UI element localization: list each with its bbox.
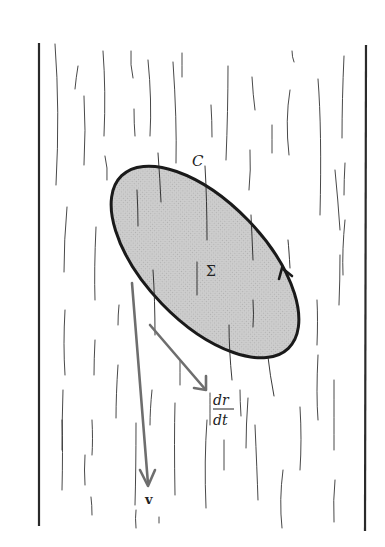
- tangent-label-numerator: dr: [213, 392, 230, 408]
- fluid-flow-diagram: C Σ dr dt v: [0, 0, 385, 547]
- velocity-label-v: v: [144, 492, 153, 507]
- curve-label-c: C: [192, 152, 204, 170]
- tangent-label-denominator: dt: [213, 412, 228, 428]
- right-wall: [365, 45, 366, 531]
- surface-label-sigma: Σ: [206, 263, 216, 279]
